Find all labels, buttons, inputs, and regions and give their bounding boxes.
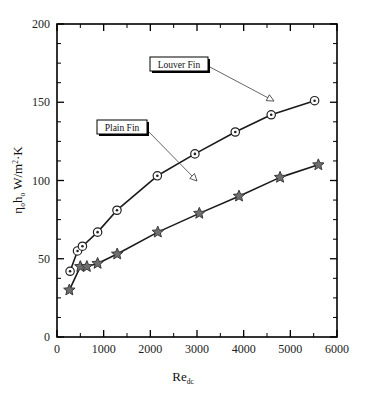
data-point-center (116, 209, 119, 212)
y-tick-label: 100 (32, 174, 50, 188)
data-point-center (156, 175, 159, 178)
x-tick-label: 6000 (325, 342, 349, 356)
x-tick-label: 4000 (232, 342, 256, 356)
data-point-center (234, 131, 237, 134)
data-point-center (69, 270, 72, 273)
x-tick-label: 0 (54, 342, 60, 356)
annotation-label: Louver Fin (158, 60, 201, 70)
data-point-center (313, 99, 316, 102)
data-point-center (194, 153, 197, 156)
annotation-label: Plain Fin (105, 123, 140, 133)
x-tick-label: 5000 (278, 342, 302, 356)
y-tick-label: 50 (38, 252, 50, 266)
data-point-center (270, 113, 273, 116)
x-tick-label: 1000 (92, 342, 116, 356)
svg-text:ηoho W/m2·K: ηoho W/m2·K (10, 146, 27, 214)
data-point-center (96, 231, 99, 234)
x-tick-label: 2000 (138, 342, 162, 356)
data-point-center (76, 250, 79, 253)
chart-figure: 0100020003000400050006000 050100150200 L… (0, 0, 366, 393)
y-tick-label: 0 (44, 330, 50, 344)
y-tick-label: 150 (32, 95, 50, 109)
data-point-center (81, 245, 84, 248)
x-tick-label: 3000 (185, 342, 209, 356)
chart-svg: 0100020003000400050006000 050100150200 L… (0, 0, 366, 393)
y-tick-label: 200 (32, 17, 50, 31)
y-axis-title: ηoho W/m2·K (10, 146, 27, 214)
